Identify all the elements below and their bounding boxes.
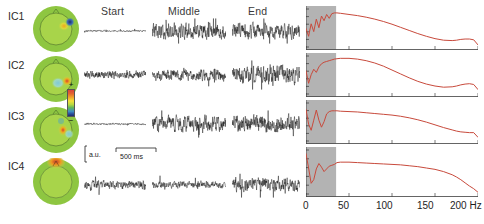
colorbar-gradient — [67, 89, 75, 117]
scale-bar-horizontal-label: 500 ms — [120, 153, 143, 160]
ic-label-ic2: IC2 — [8, 59, 24, 71]
trace-ic3-end — [232, 110, 300, 138]
trace-ic1-start — [84, 18, 146, 44]
ic-label-ic3: IC3 — [8, 110, 24, 122]
ica-components-figure: Start Middle End IC1 IC2 IC3 IC4 — [0, 0, 484, 224]
xtick-200: 200 Hz — [450, 200, 482, 211]
trace-ic1-end — [232, 18, 300, 44]
spectrum-ic4 — [306, 147, 478, 197]
spectrum-ic3 — [306, 100, 478, 144]
column-header-middle: Middle — [168, 5, 200, 17]
trace-ic2-start — [84, 60, 146, 90]
xtick-150: 150 — [417, 200, 434, 211]
spectrum-ic1 — [306, 6, 478, 50]
xtick-100: 100 — [376, 200, 393, 211]
ic-label-ic4: IC4 — [8, 160, 24, 172]
colorbar: + − — [66, 82, 76, 124]
column-header-end: End — [248, 5, 267, 17]
trace-ic4-middle — [152, 172, 226, 198]
trace-ic3-middle — [152, 110, 226, 138]
trace-ic4-start — [84, 172, 146, 198]
trace-ic2-middle — [152, 60, 226, 90]
topomap-ic4 — [32, 158, 80, 206]
ic-label-ic1: IC1 — [8, 10, 24, 22]
topomap-ic1 — [32, 5, 80, 53]
xtick-50: 50 — [338, 200, 349, 211]
trace-ic3-start — [84, 110, 146, 138]
column-header-start: Start — [101, 5, 124, 17]
trace-ic2-end — [232, 60, 300, 90]
trace-ic1-middle — [152, 18, 226, 44]
xtick-0: 0 — [303, 200, 309, 211]
scale-bar: a.u. 500 ms — [84, 143, 184, 165]
colorbar-minus-label: − — [66, 118, 76, 124]
spectrum-ic2 — [306, 53, 478, 97]
trace-ic4-end — [232, 172, 300, 198]
scale-bar-vertical-label: a.u. — [89, 151, 101, 158]
colorbar-plus-label: + — [66, 82, 76, 88]
